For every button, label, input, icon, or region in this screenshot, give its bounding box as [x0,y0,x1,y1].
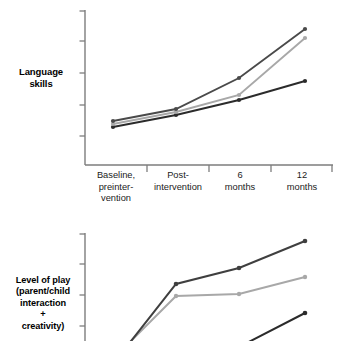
y-axis-label-line: creativity) [0,321,86,332]
data-point [303,27,307,31]
y-axis-label-level-of-play: Level of play (parent/child interaction … [0,275,86,332]
data-point [303,79,307,83]
x-axis-label-post-intervention: Post-intervention [147,170,209,205]
y-axis-label-line: Level of play [0,275,86,286]
y-axis-label-line: + [0,309,86,320]
line-chart-language-skills [78,6,333,178]
data-series-dark-gray [113,239,307,341]
plot-area-language-skills [78,6,333,176]
data-point [303,311,308,316]
chart-panel-level-of-play: Level of play (parent/child interaction … [0,225,337,338]
data-point [237,266,242,271]
data-point [174,294,178,298]
data-point [174,107,178,111]
y-axis-label-language-skills: Language skills [2,66,80,89]
data-point [237,76,241,80]
x-axis-label-baseline: Baseline,preinter-vention [85,170,147,205]
data-series-light-gray [113,275,307,341]
y-axis-label-line: (parent/child [0,286,86,297]
data-series-dark-gray [111,27,307,123]
data-point [303,239,308,244]
data-point [174,282,179,287]
y-axis-label-line: interaction [0,298,86,309]
y-axis-label-line: Language [2,66,80,78]
data-point [111,119,115,123]
data-point [237,93,241,97]
x-axis-label-12-months: 12months [271,170,333,205]
y-axis-label-line: skills [2,78,80,90]
x-axis-labels-language-skills: Baseline,preinter-vention Post-intervent… [85,170,333,205]
line-chart-level-of-play [78,229,333,341]
x-axis-label-6-months: 6months [209,170,271,205]
plot-area-level-of-play [78,229,333,338]
chart-panel-language-skills: Language skills [0,0,337,225]
data-point [303,275,307,279]
data-point [237,292,241,296]
data-point [237,98,241,102]
data-point [303,36,307,40]
